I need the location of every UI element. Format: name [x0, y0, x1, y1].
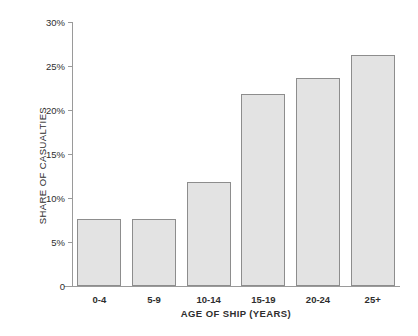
- x-tick-label-25+: 25+: [365, 294, 381, 305]
- bar-15-19: [241, 94, 285, 286]
- y-tick-label: 5%: [51, 237, 65, 248]
- x-axis-line: [64, 286, 400, 287]
- bar-chart: SHARE OF CASUALTIES 05%10%15%20%25%30% 0…: [0, 0, 418, 336]
- y-tick-label: 25%: [46, 61, 65, 72]
- y-tick-label: 20%: [46, 105, 65, 116]
- x-axis-title: AGE OF SHIP (YEARS): [72, 308, 400, 319]
- bar-20-24: [296, 78, 340, 286]
- bar-5-9: [132, 219, 176, 286]
- y-tick-label: 15%: [46, 149, 65, 160]
- x-tick-label-15-19: 15-19: [251, 294, 275, 305]
- bar-25+: [351, 55, 395, 286]
- y-axis-title: SHARE OF CASUALTIES: [37, 46, 48, 286]
- bar-0-4: [77, 219, 121, 286]
- y-tick-label: 0: [60, 281, 65, 292]
- bar-series: [72, 22, 400, 286]
- y-tick-label: 30%: [46, 17, 65, 28]
- x-tick-label-0-4: 0-4: [92, 294, 106, 305]
- y-tick-mark: [68, 286, 72, 287]
- x-tick-label-5-9: 5-9: [147, 294, 161, 305]
- x-tick-label-10-14: 10-14: [197, 294, 221, 305]
- y-tick-label: 10%: [46, 193, 65, 204]
- x-tick-label-20-24: 20-24: [306, 294, 330, 305]
- plot-area: 05%10%15%20%25%30% 0-45-910-1415-1920-24…: [72, 22, 400, 286]
- bar-10-14: [187, 182, 231, 286]
